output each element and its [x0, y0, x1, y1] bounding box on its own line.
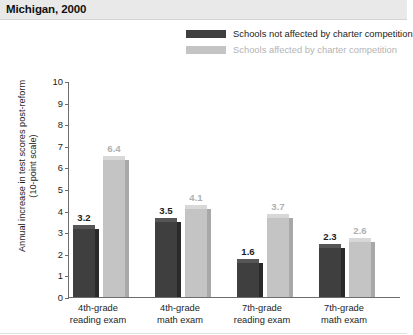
y-tick	[65, 276, 69, 277]
legend-swatch-not-affected	[186, 30, 226, 38]
y-tick	[65, 82, 69, 83]
y-tick-label: 4	[41, 206, 63, 217]
bar-value-label: 2.3	[313, 231, 347, 242]
bar-side-face	[125, 160, 129, 298]
bar-group: 3.26.4	[73, 82, 155, 298]
y-axis-title: Annual increase in test scores post-refo…	[17, 59, 39, 274]
legend-item-not-affected: Schools not affected by charter competit…	[186, 27, 401, 40]
y-tick	[65, 125, 69, 126]
y-tick-label: 8	[41, 119, 63, 130]
y-tick-label: 7	[41, 141, 63, 152]
bar-front-face	[103, 160, 125, 298]
chart-legend: Schools not affected by charter competit…	[186, 27, 401, 59]
bar	[267, 218, 289, 298]
legend-label-not-affected: Schools not affected by charter competit…	[233, 29, 413, 39]
bar	[155, 222, 177, 298]
legend-swatch-affected	[186, 46, 226, 54]
bar	[103, 160, 125, 298]
bar-side-face	[371, 242, 375, 298]
chart-area: Annual increase in test scores post-refo…	[0, 60, 407, 335]
y-axis-title-line2: (10-point scale)	[28, 59, 39, 274]
bar-value-label: 4.1	[179, 192, 213, 203]
bar-front-face	[73, 229, 95, 298]
bar-group: 3.54.1	[155, 82, 237, 298]
bar	[349, 242, 371, 298]
bar-group: 1.63.7	[237, 82, 319, 298]
y-tick	[65, 147, 69, 148]
bar-value-label: 3.7	[261, 201, 295, 212]
y-tick-label: 5	[41, 184, 63, 195]
bar-side-face	[289, 218, 293, 298]
bar-value-label: 1.6	[231, 246, 265, 257]
y-axis-title-line1: Annual increase in test scores post-refo…	[17, 59, 28, 274]
y-tick-label: 1	[41, 270, 63, 281]
y-tick	[65, 233, 69, 234]
y-tick-label: 6	[41, 162, 63, 173]
bar-side-face	[95, 229, 99, 298]
page-title: Michigan, 2000	[6, 3, 86, 15]
y-tick-label: 0	[41, 292, 63, 303]
bar-front-face	[349, 242, 371, 298]
bottom-divider	[0, 333, 407, 334]
bar-value-label: 2.6	[343, 225, 377, 236]
plot-area: 012345678910 3.26.43.54.11.63.72.32.6	[68, 82, 399, 298]
bar	[185, 209, 207, 298]
bar-front-face	[155, 222, 177, 298]
y-tick-label: 9	[41, 98, 63, 109]
bar-side-face	[259, 263, 263, 298]
bar-group: 2.32.6	[319, 82, 401, 298]
bar	[237, 263, 259, 298]
legend-label-affected: Schools affected by charter competition	[233, 45, 397, 55]
bar-front-face	[185, 209, 207, 298]
x-category-label: 7th-grademath exam	[296, 303, 392, 326]
y-tick-label: 10	[41, 76, 63, 87]
bar-value-label: 3.2	[67, 212, 101, 223]
bar-front-face	[319, 248, 341, 298]
y-tick	[65, 104, 69, 105]
x-category-label-line: math exam	[296, 315, 392, 327]
x-category-label-line: 7th-grade	[296, 303, 392, 315]
y-tick-label: 2	[41, 249, 63, 260]
y-tick	[65, 190, 69, 191]
bar	[73, 229, 95, 298]
bar-value-label: 6.4	[97, 143, 131, 154]
bar-value-label: 3.5	[149, 205, 183, 216]
y-tick-label: 3	[41, 227, 63, 238]
bar	[319, 248, 341, 298]
x-axis-line	[68, 297, 400, 298]
bar-side-face	[341, 248, 345, 298]
bar-side-face	[177, 222, 181, 298]
bar-side-face	[207, 209, 211, 298]
y-tick	[65, 255, 69, 256]
y-tick	[65, 168, 69, 169]
bar-front-face	[267, 218, 289, 298]
legend-item-affected: Schools affected by charter competition	[186, 43, 401, 56]
bar-front-face	[237, 263, 259, 298]
